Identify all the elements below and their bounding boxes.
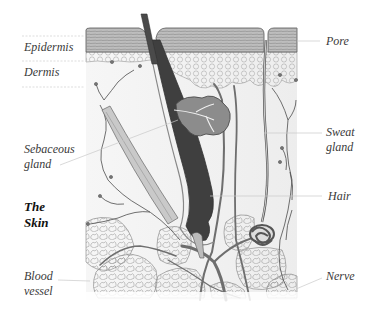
label-sweat-gland-line2: gland: [326, 140, 355, 155]
label-blood-vessel-line1: Blood: [24, 269, 53, 284]
diagram-title: The Skin: [24, 199, 49, 231]
label-sweat-gland-line1: Sweat: [326, 125, 355, 140]
diagram-title-line2: Skin: [24, 215, 49, 231]
label-sweat-gland: Sweat gland: [326, 125, 355, 155]
label-epidermis: Epidermis: [24, 40, 73, 55]
label-sebaceous-gland: Sebaceous gland: [24, 142, 75, 172]
label-nerve: Nerve: [326, 269, 355, 284]
label-blood-vessel-line2: vessel: [24, 284, 53, 299]
label-dermis: Dermis: [24, 65, 59, 80]
diagram-title-line1: The: [24, 199, 49, 215]
label-hair: Hair: [328, 189, 351, 204]
label-sebaceous-gland-line1: Sebaceous: [24, 142, 75, 157]
label-sebaceous-gland-line2: gland: [24, 157, 75, 172]
skin-diagram: Epidermis Dermis Pore Sebaceous gland Sw…: [0, 0, 375, 313]
label-blood-vessel: Blood vessel: [24, 269, 53, 299]
label-pore: Pore: [326, 34, 349, 49]
